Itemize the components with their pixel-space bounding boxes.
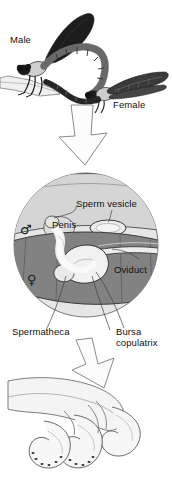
- label-spermatheca: Spermatheca: [12, 326, 70, 337]
- label-penis: Penis: [52, 219, 76, 230]
- damselfly-figure: Male Female: [0, 0, 172, 489]
- anatomy-inset-panel: ♂ ♀ Penis Sperm vesicle Oviduct Spermath…: [0, 150, 172, 365]
- penis-detail-panel: [0, 375, 172, 489]
- male-symbol: ♂: [20, 222, 32, 237]
- label-sperm-vesicle: Sperm vesicle: [76, 198, 137, 209]
- penis-detail-illustration: [0, 375, 172, 489]
- female-wings: [107, 72, 168, 99]
- female-symbol: ♀: [27, 272, 37, 287]
- label-oviduct: Oviduct: [114, 264, 147, 275]
- label-male: Male: [10, 34, 31, 45]
- penis-lobe-inner: [29, 421, 70, 468]
